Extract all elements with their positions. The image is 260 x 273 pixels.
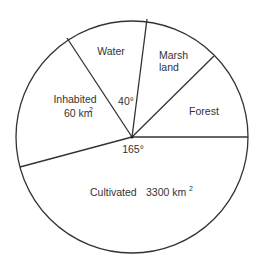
label-inhabited-line2: 60 km 2: [64, 106, 93, 119]
label-inhabited-line1: Inhabited: [53, 93, 96, 105]
label-cultivated-name: Cultivated: [90, 186, 137, 198]
label-marsh-line1: Marsh: [159, 49, 188, 61]
pie-chart-svg: Water Marsh land Forest 40° Inhabited 60…: [0, 0, 260, 273]
label-forest: Forest: [189, 105, 219, 117]
label-marsh-line2: land: [159, 61, 179, 73]
label-cultivated-superscript: 2: [189, 185, 193, 192]
label-cultivated-value: 3300 km: [146, 186, 187, 198]
center-point: [130, 135, 133, 138]
pie-chart: Water Marsh land Forest 40° Inhabited 60…: [0, 0, 260, 273]
label-water: Water: [97, 45, 125, 57]
label-inhabited-superscript: 2: [89, 106, 93, 113]
label-water-angle: 40°: [118, 95, 134, 107]
label-cultivated-angle: 165°: [122, 143, 144, 155]
